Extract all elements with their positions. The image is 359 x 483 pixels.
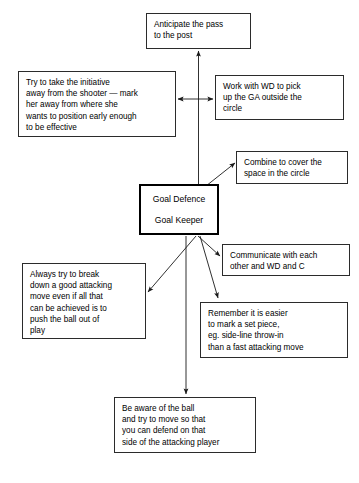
connector-center-to-remember [200, 236, 218, 298]
center-label-goal-keeper: Goal Keeper [141, 215, 217, 225]
node-remember-set-piece: Remember it is easier to mark a set piec… [200, 302, 348, 358]
node-be-aware-of-the-ball: Be aware of the ball and try to move so … [114, 397, 256, 453]
node-center-goal-defence-goal-keeper: Goal Defence Goal Keeper [139, 184, 219, 235]
connector-center-to-communicate [198, 236, 220, 256]
connector-center-to-always [148, 236, 196, 292]
connector-center-to-combine [206, 163, 235, 186]
diagram-canvas: Anticipate the pass to the post Try to t… [0, 0, 359, 483]
node-anticipate-the-pass: Anticipate the pass to the post [146, 13, 251, 49]
node-work-with-wd: Work with WD to pick up the GA outside t… [215, 75, 344, 120]
node-always-try-to-break-down: Always try to break down a good attackin… [22, 263, 146, 339]
node-combine-to-cover: Combine to cover the space in the circle [236, 151, 348, 184]
center-label-goal-defence: Goal Defence [141, 194, 217, 204]
node-take-the-initiative: Try to take the initiative away from the… [18, 71, 176, 137]
node-communicate-with-each-other: Communicate with each other and WD and C [222, 244, 350, 276]
